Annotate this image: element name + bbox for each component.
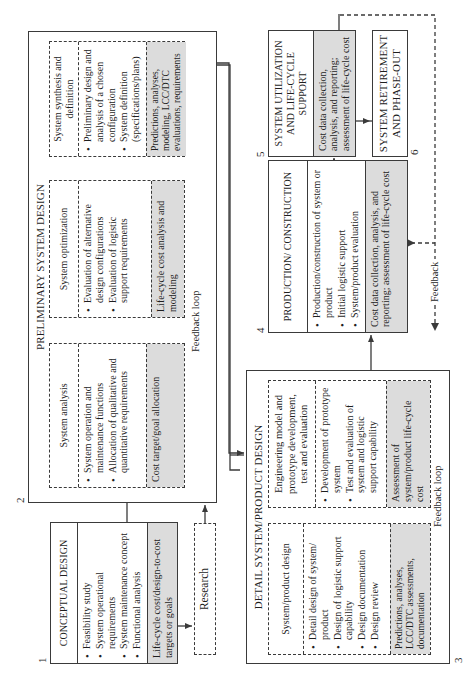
cost-note: Assessment of system/product life-cycle … (386, 381, 430, 507)
block-title: Engineering model and prototype developm… (269, 381, 315, 507)
block-items: Development of prototype system Test and… (315, 381, 386, 507)
block-items: Evaluation of alternative design configu… (78, 181, 151, 317)
phase-system-utilization: SYSTEM UTILIZATION AND LIFE-CYCLE SUPPOR… (268, 30, 356, 157)
list-item: System/product evaluation (349, 166, 361, 327)
list-item: Initial logistic support (336, 166, 348, 327)
list-item: Production/construction of system or pro… (311, 166, 335, 327)
list-item: System maintenance concept (118, 528, 130, 658)
list-item: System operation and maintenance functio… (82, 349, 106, 482)
phase-number-4: 4 (254, 328, 266, 334)
list-item: Design review (369, 529, 381, 649)
phase-number-2: 2 (14, 498, 26, 504)
list-item: Evaluation of logistic support requireme… (107, 186, 131, 312)
cost-note: Predictions, analyses, modeling, LCC/DTC… (146, 42, 186, 156)
life-cycle-diagram: 2 PRELIMINARY SYSTEM DESIGN System analy… (0, 0, 464, 685)
list-item: System operational requirements (94, 528, 118, 658)
feedback-loop-label: Feedback loop (190, 287, 201, 355)
cost-note: Predictions, analyses, LCC/DTC assessmen… (390, 524, 430, 654)
list-item: Allocation of qualitative and quantitati… (107, 349, 131, 482)
list-item: Preliminary design and analysis of a cho… (82, 47, 117, 151)
list-item: Evaluation of alternative design configu… (82, 186, 106, 312)
list-item: Development of prototype system (319, 386, 343, 502)
block-items: Preliminary design and analysis of a cho… (78, 42, 146, 156)
phase-number-3: 3 (452, 658, 464, 664)
list-item: Detail design of system/ product (307, 529, 331, 649)
list-item: Design of logistic support capability (332, 529, 356, 649)
preliminary-title: PRELIMINARY SYSTEM DESIGN (34, 31, 47, 503)
block-system-analysis: System analysis System operation and mai… (49, 343, 185, 488)
detail-feedback-loop-label: Feedback loop (432, 462, 443, 530)
block-system-optimization: System optimization Evaluation of altern… (49, 180, 185, 318)
production-title: PRODUCTION/ CONSTRUCTION (269, 161, 307, 332)
feedback-label: Feedback (429, 259, 440, 305)
block-items: System operation and maintenance functio… (78, 344, 146, 487)
list-item: Feasibility study (81, 528, 93, 658)
cost-note: Life-cycle cost analysis and modeling (151, 181, 184, 317)
phase-number-6: 6 (408, 150, 420, 156)
phase-conceptual-design: CONCEPTUAL DESIGN Feasibility study Syst… (50, 522, 178, 664)
block-title: System analysis (50, 344, 78, 487)
production-items: Production/construction of system or pro… (307, 161, 364, 332)
block-title: System synthesis and definition (50, 42, 78, 156)
cost-note: Cost data collection, analysis, and repo… (313, 31, 355, 156)
cost-note: Life-cycle cost/design-to-cost targets o… (147, 523, 177, 663)
block-system-synthesis: System synthesis and definition Prelimin… (49, 41, 185, 157)
list-item: System definition (specifications/plans) (118, 47, 142, 151)
block-system-product-design: System/product design Detail design of s… (268, 523, 431, 655)
list-item: Design documentation (356, 529, 368, 649)
utilization-title: SYSTEM UTILIZATION AND LIFE-CYCLE SUPPOR… (269, 31, 313, 156)
phase-number-1: 1 (36, 658, 48, 664)
list-item: Functional analysis (131, 528, 143, 658)
cost-note: Cost data collection, analysis, and repo… (365, 161, 407, 332)
research-box: Research (194, 523, 216, 655)
block-prototype-development: Engineering model and prototype developm… (268, 380, 431, 508)
block-title: System optimization (50, 181, 78, 317)
detail-title: DETAIL SYSTEM/PRODUCT DESIGN (252, 370, 265, 664)
cost-note: Cost target/goal allocation (146, 344, 184, 487)
conceptual-items: Feasibility study System operational req… (77, 523, 147, 663)
block-title: System/product design (269, 524, 303, 654)
phase-production-construction: PRODUCTION/ CONSTRUCTION Production/cons… (268, 160, 408, 333)
conceptual-title: CONCEPTUAL DESIGN (51, 523, 77, 663)
phase-number-5: 5 (254, 152, 266, 158)
block-items: Detail design of system/ product Design … (303, 524, 390, 654)
list-item: Test and evaluation of system and logist… (344, 386, 379, 502)
phase-system-retirement: SYSTEM RETIREMENT AND PHASE-OUT (372, 30, 408, 157)
